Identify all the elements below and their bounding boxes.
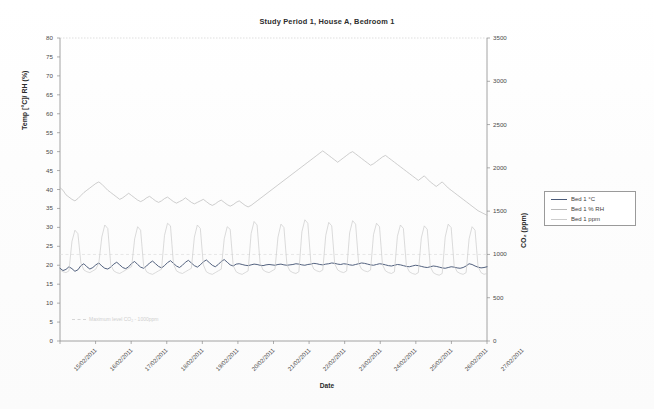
legend-swatch-temp [551,199,567,200]
y-tick-label-left: 45 [31,167,53,174]
dashed-line-icon [72,319,86,320]
legend-item-rh: Bed 1 % RH [548,204,632,214]
y-tick-label-left: 35 [31,204,53,211]
y-tick-label-left: 0 [31,337,53,344]
y-tick-label-right: 1500 [493,207,523,214]
y-tick-label-left: 10 [31,299,53,306]
legend-item-temp: Bed 1 °C [548,194,632,204]
y-tick-label-left: 80 [31,34,53,41]
y-tick-label-left: 55 [31,129,53,136]
series-line-rh [60,151,487,215]
y-tick-label-left: 60 [31,110,53,117]
y-tick-label-right: 3000 [493,77,523,84]
legend-item-co2: Bed 1 ppm [548,214,632,224]
legend-swatch-rh [551,209,567,210]
y-tick-label-left: 30 [31,223,53,230]
y-tick-label-right: 500 [493,294,523,301]
legend-label-rh: Bed 1 % RH [571,206,604,212]
chart-canvas: Study Period 1, House A, Bedroom 1 Temp … [0,0,654,409]
y-tick-label-left: 40 [31,186,53,193]
y-tick-label-left: 20 [31,261,53,268]
co2-threshold-annotation: Maximum level CO₂ - 1000ppm [72,316,158,322]
legend-swatch-co2 [551,219,567,220]
y-tick-label-left: 70 [31,72,53,79]
chart-legend: Bed 1 °C Bed 1 % RH Bed 1 ppm [544,191,636,226]
y-tick-label-left: 65 [31,91,53,98]
legend-label-temp: Bed 1 °C [571,196,595,202]
y-tick-label-right: 3500 [493,34,523,41]
co2-threshold-text: Maximum level CO₂ - 1000ppm [89,316,158,322]
y-tick-label-right: 1000 [493,250,523,257]
y-tick-label-left: 25 [31,242,53,249]
y-tick-label-left: 50 [31,148,53,155]
y-tick-label-right: 2500 [493,121,523,128]
y-tick-label-left: 15 [31,280,53,287]
y-tick-label-left: 75 [31,53,53,60]
legend-label-co2: Bed 1 ppm [571,216,600,222]
y-tick-label-right: 0 [493,337,523,344]
y-tick-label-left: 5 [31,318,53,325]
series-line-temp [60,260,487,272]
y-tick-label-right: 2000 [493,164,523,171]
